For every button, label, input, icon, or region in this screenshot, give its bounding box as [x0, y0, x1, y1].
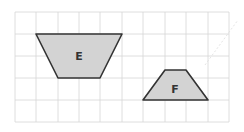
- grid-diagram: E F: [0, 0, 244, 132]
- shape-e-label: E: [75, 50, 83, 63]
- shape-f-label: F: [171, 83, 179, 96]
- shape-e: E: [36, 34, 122, 78]
- shape-f: F: [143, 70, 208, 100]
- faint-diagonal-mark: [205, 20, 238, 65]
- grid-lines: [15, 12, 229, 122]
